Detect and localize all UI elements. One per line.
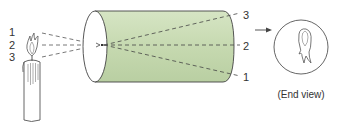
end-view [274, 20, 328, 74]
image-label-1: 1 [243, 71, 249, 83]
image-label-2: 2 [243, 40, 249, 52]
pinhole-camera-diagram: 1 2 3 3 2 1 (End view) [0, 0, 351, 127]
source-label-2: 2 [9, 39, 15, 51]
candle-icon [23, 56, 40, 122]
arrow-right-icon [255, 28, 272, 33]
source-label-1: 1 [9, 26, 15, 38]
image-label-3: 3 [243, 9, 249, 21]
pinhole [101, 44, 104, 46]
source-label-3: 3 [9, 51, 15, 63]
flame-icon [27, 33, 38, 56]
pinhole-camera-cylinder [83, 11, 234, 82]
end-view-caption: (End view) [277, 89, 324, 100]
